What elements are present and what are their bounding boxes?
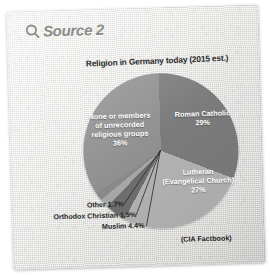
chart-citation: (CIA Factbook) xyxy=(181,233,232,243)
source-card-container: Source 2 Religion in Germany today (2015… xyxy=(0,0,270,275)
card-content: Source 2 Religion in Germany today (2015… xyxy=(6,5,265,270)
source-header: Source 2 xyxy=(25,21,104,40)
callout-muslim: Muslim 4.4% xyxy=(12,222,144,234)
source-label: Source 2 xyxy=(43,21,104,40)
magnifier-icon xyxy=(25,24,40,39)
chart-title: Religion in Germany today (2015 est.) xyxy=(86,51,261,68)
